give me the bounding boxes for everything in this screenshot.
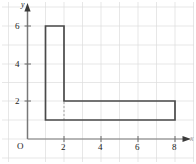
origin-label: O: [17, 142, 24, 151]
tick-label-x-4: 4: [98, 143, 103, 152]
axis-ticks: [25, 26, 176, 142]
tick-label-y-2: 2: [15, 97, 20, 106]
axis-y: [24, 3, 30, 139]
coordinate-plot-figure: y x O 2 4 6 8 2 4 6: [0, 0, 196, 164]
axis-x: [28, 136, 192, 142]
x-axis-label: x: [190, 135, 194, 143]
grid-lines-horizontal: [2, 7, 194, 158]
tick-label-y-4: 4: [15, 60, 20, 69]
tick-label-x-2: 2: [61, 143, 66, 152]
plot-canvas: [0, 0, 196, 164]
tick-label-x-8: 8: [172, 143, 177, 152]
tick-label-y-6: 6: [15, 22, 20, 31]
y-axis-label: y: [21, 1, 25, 9]
l-shaped-polygon: [46, 26, 176, 120]
tick-label-x-6: 6: [135, 143, 140, 152]
